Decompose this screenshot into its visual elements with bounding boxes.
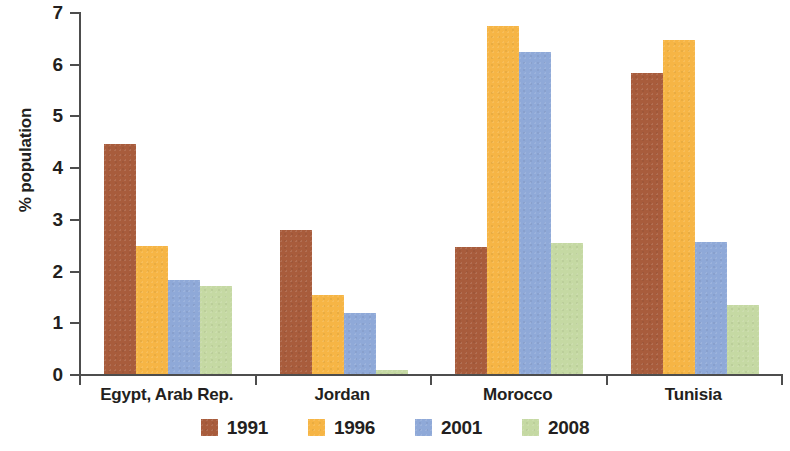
x-axis-separator-tick — [430, 374, 432, 385]
bar-group — [606, 12, 782, 374]
bar-group-bars — [430, 12, 606, 374]
legend-item-2008[interactable]: 2008 — [522, 418, 589, 437]
legend-item-1996[interactable]: 1996 — [308, 418, 375, 437]
legend-label: 1996 — [334, 418, 375, 437]
legend-label: 1991 — [227, 418, 268, 437]
y-tick-mark — [70, 271, 79, 273]
x-axis-label: Jordan — [255, 385, 431, 405]
bar-groups — [79, 12, 781, 374]
y-tick-mark — [70, 374, 79, 376]
bar-group — [255, 12, 431, 374]
x-axis-separator-tick — [79, 374, 81, 385]
legend: 1991199620012008 — [0, 418, 790, 437]
bar-group-bars — [255, 12, 431, 374]
y-tick-label: 4 — [52, 158, 63, 177]
bar-1991-morocco — [455, 247, 487, 374]
x-axis-separator-tick — [781, 374, 783, 385]
y-tick-label: 7 — [52, 3, 63, 22]
bar-2008-egypt-arab-rep — [200, 286, 232, 374]
x-axis-separator-tick — [606, 374, 608, 385]
y-tick-label: 2 — [52, 261, 63, 280]
y-tick-label: 1 — [52, 313, 63, 332]
bar-chart: % population 01234567 Egypt, Arab Rep.Jo… — [0, 0, 790, 451]
legend-label: 2001 — [441, 418, 482, 437]
y-tick-mark — [70, 12, 79, 14]
y-axis-title: % population — [16, 90, 36, 230]
bar-2008-morocco — [551, 243, 583, 374]
bar-group — [79, 12, 255, 374]
bar-1991-jordan — [280, 230, 312, 374]
bar-2008-tunisia — [727, 305, 759, 374]
bar-2001-tunisia — [695, 242, 727, 374]
bar-1996-morocco — [487, 26, 519, 374]
bar-2001-jordan — [344, 313, 376, 374]
bar-1996-jordan — [312, 295, 344, 374]
y-tick-label: 3 — [52, 209, 63, 228]
legend-swatch-icon — [308, 419, 325, 436]
y-tick-mark — [70, 322, 79, 324]
bar-group-bars — [606, 12, 782, 374]
legend-swatch-icon — [522, 419, 539, 436]
bar-2001-egypt-arab-rep — [168, 280, 200, 374]
x-axis-label: Tunisia — [606, 385, 782, 405]
bar-2001-morocco — [519, 52, 551, 374]
x-axis-separator-tick — [255, 374, 257, 385]
x-axis-label: Egypt, Arab Rep. — [79, 385, 255, 405]
x-axis-label: Morocco — [430, 385, 606, 405]
legend-swatch-icon — [201, 419, 218, 436]
y-tick-mark — [70, 167, 79, 169]
bar-1996-egypt-arab-rep — [136, 246, 168, 374]
y-tick-mark — [70, 64, 79, 66]
legend-item-1991[interactable]: 1991 — [201, 418, 268, 437]
y-tick-mark — [70, 115, 79, 117]
plot-area: 01234567 — [79, 12, 781, 374]
y-tick-label: 0 — [52, 365, 63, 384]
y-tick-mark — [70, 219, 79, 221]
legend-label: 2008 — [548, 418, 589, 437]
bar-1991-egypt-arab-rep — [104, 144, 136, 374]
y-tick-label: 6 — [52, 54, 63, 73]
bar-group-bars — [79, 12, 255, 374]
legend-item-2001[interactable]: 2001 — [415, 418, 482, 437]
bar-1991-tunisia — [631, 73, 663, 374]
y-tick-label: 5 — [52, 106, 63, 125]
legend-swatch-icon — [415, 419, 432, 436]
bar-group — [430, 12, 606, 374]
bar-1996-tunisia — [663, 40, 695, 374]
bar-2008-jordan — [376, 370, 408, 374]
